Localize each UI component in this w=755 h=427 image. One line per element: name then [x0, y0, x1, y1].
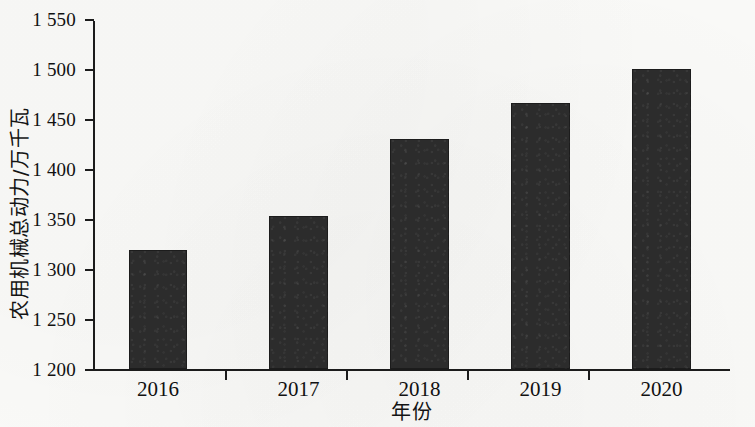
x-axis-line	[93, 369, 730, 371]
y-axis-tick-label: 1 450	[32, 110, 76, 129]
y-axis-tick: 1 200	[85, 369, 94, 371]
y-axis-tick-label: 1 400	[32, 160, 76, 179]
y-axis-tick: 1 250	[85, 319, 94, 321]
y-axis-tick-label: 1 550	[32, 10, 76, 29]
y-axis-title-text: 农用机械总动力/万千瓦	[4, 107, 33, 319]
y-axis-tick-label: 1 500	[32, 60, 76, 79]
y-axis-tick: 1 550	[85, 19, 94, 21]
x-axis-tick	[225, 371, 227, 380]
bar-2019: 2019	[511, 103, 570, 369]
y-axis-tick: 1 350	[85, 219, 94, 221]
bar-2018: 2018	[390, 139, 449, 369]
x-axis-title-text: 年份	[391, 400, 432, 424]
chart-figure: 农用机械总动力/万千瓦 1 200 1 250 1 300 1 350 1 40…	[0, 0, 755, 427]
y-axis-tick-label: 1 200	[32, 360, 76, 379]
y-axis-tick: 1 400	[85, 169, 94, 171]
bar-2016: 2016	[129, 250, 187, 369]
y-axis-tick-label: 1 300	[32, 260, 76, 279]
y-axis-tick: 1 500	[85, 69, 94, 71]
y-axis-tick: 1 300	[85, 269, 94, 271]
x-axis-title: 年份	[93, 396, 730, 425]
y-axis-title: 农用机械总动力/万千瓦	[2, 0, 34, 427]
y-axis-tick-label: 1 350	[32, 210, 76, 229]
y-axis-tick: 1 450	[85, 119, 94, 121]
bar-2020: 2020	[632, 69, 691, 369]
plot-area: 1 200 1 250 1 300 1 350 1 400 1 450 1 50…	[93, 21, 730, 371]
bar-2017: 2017	[269, 216, 328, 369]
y-axis-tick-label: 1 250	[32, 310, 76, 329]
